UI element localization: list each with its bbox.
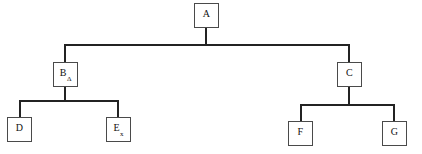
tree-node-b[interactable]: BΔ [53,62,78,87]
tree-node-a[interactable]: A [194,3,219,28]
tree-node-d[interactable]: D [7,117,32,142]
edge-bus-level1 [64,44,349,46]
tree-node-c-label: C [346,68,353,81]
edge-bus-to-c [348,44,350,63]
tree-node-b-label: BΔ [60,68,72,81]
tree-node-e-label: Ex [113,123,123,136]
tree-node-d-label: D [16,123,23,136]
tree-node-a-label: A [203,9,210,22]
tree-node-b-subscript: Δ [67,75,72,83]
tree-node-c[interactable]: C [337,62,362,87]
edge-bus-to-d [19,100,21,118]
edge-b-to-bus [64,86,66,101]
edge-bus-to-b [64,44,66,63]
edge-bus-to-g [393,104,395,122]
edge-bus-to-e [117,100,119,118]
tree-node-f-label: F [298,127,304,140]
tree-node-f[interactable]: F [288,121,313,146]
tree-node-g-label: G [391,127,398,140]
tree-node-e-subscript: x [120,130,124,138]
edge-bus-to-f [300,104,302,122]
edge-a-to-bus [205,27,207,45]
tree-diagram: A BΔ C D Ex F G [0,0,422,154]
tree-node-g[interactable]: G [382,121,407,146]
edge-c-to-bus [348,86,350,105]
tree-node-e[interactable]: Ex [106,117,131,142]
edge-bus-level2-left [19,100,119,102]
edge-bus-level2-right [300,104,395,106]
